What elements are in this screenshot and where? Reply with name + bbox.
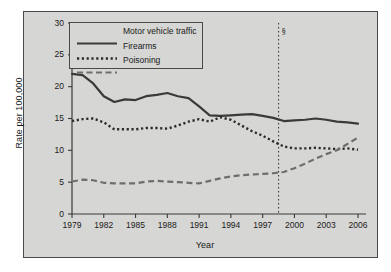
- legend-item-poisoning: Poisoning: [70, 54, 204, 69]
- legend-label: Motor vehicle traffic: [123, 26, 197, 36]
- legend-item-firearms: Firearms: [70, 40, 204, 55]
- y-tick-label: 15: [44, 113, 64, 123]
- y-tick-label: 20: [44, 81, 64, 91]
- y-tick-label: 10: [44, 145, 64, 155]
- y-tick-label: 0: [44, 209, 64, 219]
- x-tick-label: 1979: [57, 220, 87, 230]
- x-tick-label: 1991: [184, 220, 214, 230]
- legend-swatch-dotted-icon: [77, 46, 117, 49]
- x-axis-ticks: [72, 214, 358, 218]
- x-tick-label: 1982: [89, 220, 119, 230]
- section-symbol-annotation: §: [282, 26, 287, 36]
- x-tick-label: 2003: [311, 220, 341, 230]
- legend-swatch-solid-icon: [77, 31, 117, 34]
- x-tick-label: 1985: [121, 220, 151, 230]
- x-tick-label: 2006: [343, 220, 373, 230]
- x-axis-label: Year: [150, 240, 260, 250]
- legend-item-motor-vehicle-traffic: Motor vehicle traffic: [70, 25, 204, 40]
- legend-label: Firearms: [123, 41, 157, 51]
- x-tick-label: 1994: [216, 220, 246, 230]
- chart-legend: Motor vehicle traffic Firearms Poisoning: [69, 22, 203, 69]
- legend-label: Poisoning: [123, 55, 160, 65]
- series-line-firearms: [72, 117, 358, 149]
- legend-swatch-dashed-icon: [77, 60, 117, 63]
- y-tick-label: 25: [44, 49, 64, 59]
- chart-figure: Rate per 100,000 Year 051015202530 19791…: [0, 0, 391, 272]
- y-tick-label: 30: [44, 18, 64, 28]
- y-tick-label: 5: [44, 177, 64, 187]
- x-tick-label: 1988: [152, 220, 182, 230]
- series-line-motor-vehicle-traffic: [72, 74, 358, 124]
- data-series-layer: [72, 74, 358, 184]
- series-line-poisoning: [72, 138, 358, 184]
- x-tick-label: 2000: [279, 220, 309, 230]
- y-axis-label: Rate per 100,000: [14, 58, 24, 168]
- x-tick-label: 1997: [248, 220, 278, 230]
